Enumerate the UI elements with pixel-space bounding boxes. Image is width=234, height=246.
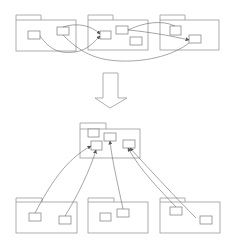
element-box xyxy=(57,27,69,35)
element-box xyxy=(104,133,116,141)
top-package-1 xyxy=(16,15,76,51)
package-consolidation-diagram xyxy=(0,0,234,246)
bottom-package-2 xyxy=(88,198,148,233)
element-box xyxy=(170,26,181,35)
element-box xyxy=(100,31,111,39)
element-box xyxy=(100,213,111,221)
element-box xyxy=(123,140,135,148)
top-package-3 xyxy=(160,15,219,50)
element-box xyxy=(28,31,40,39)
element-box xyxy=(117,209,129,217)
element-box xyxy=(170,207,182,215)
element-box xyxy=(189,35,201,43)
bottom-package-3 xyxy=(160,198,220,233)
top-package-2 xyxy=(88,15,148,50)
element-box xyxy=(91,141,102,150)
element-box xyxy=(59,216,71,224)
element-box xyxy=(88,129,99,137)
element-box xyxy=(130,37,142,45)
element-box xyxy=(200,216,212,224)
element-box xyxy=(116,26,128,34)
element-box xyxy=(29,213,41,221)
transform-down-arrow-icon xyxy=(95,73,127,108)
bottom-package-1 xyxy=(16,198,77,233)
